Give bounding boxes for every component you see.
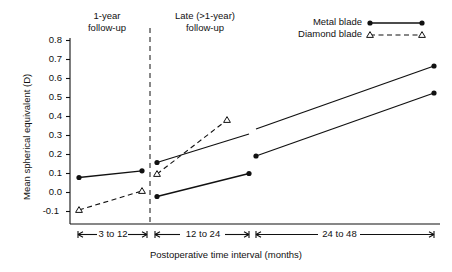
y-tick-label-1: 0.7 (36, 54, 62, 65)
metal-marker-24-lower-start (253, 153, 258, 158)
diamond-segment-12-24 (157, 120, 227, 174)
legend-label-diamond-blade: Diamond blade (252, 29, 362, 40)
y-tick-label-2: 0.6 (36, 73, 62, 84)
metal-segment-24-48-upper (256, 66, 434, 129)
metal-segment-12-24-lower (157, 174, 249, 197)
metal-segment-12-24-upper (157, 134, 249, 163)
diamond-segment-3-12 (79, 191, 142, 210)
metal-marker-48-upper (431, 63, 436, 68)
metal-segment-3-12 (79, 171, 142, 178)
y-tick-label-8: 0.0 (36, 187, 62, 198)
x-range-bars (78, 231, 434, 238)
y-tick-label-0: 0.8 (36, 35, 62, 46)
legend-samples (367, 20, 426, 37)
x-axis-title: Postoperative time interval (months) (0, 250, 452, 261)
legend-marker-diamond-right (419, 32, 426, 38)
metal-marker-48-lower (431, 90, 436, 95)
x-range-label-24-to-48: 24 to 48 (318, 229, 361, 240)
y-tick-label-9: -0.1 (33, 206, 59, 217)
y-tick-label-6: 0.2 (36, 149, 62, 160)
x-range-label-12-to-24: 12 to 24 (180, 229, 226, 240)
chart-canvas (0, 0, 452, 272)
y-tick-label-4: 0.4 (36, 111, 62, 122)
diamond-marker-12a (139, 188, 146, 194)
series-diamond-blade (76, 117, 231, 213)
metal-segment-24-48-lower (256, 93, 434, 156)
series-metal-blade (76, 63, 436, 199)
legend-marker-metal-left (367, 20, 372, 25)
panel-title-1-line1: 1-year (52, 11, 162, 22)
y-axis-title: Mean spherical equivalent (D) (22, 74, 33, 200)
diamond-marker-24 (224, 117, 231, 123)
y-tick-label-7: 0.1 (36, 168, 62, 179)
metal-marker-12b-upper (154, 160, 159, 165)
metal-marker-24-lower-end (246, 171, 251, 176)
legend-label-metal-blade: Metal blade (252, 17, 362, 28)
y-axis-ticks (66, 41, 70, 212)
chart-figure: 0.8 0.7 0.6 0.5 0.4 0.3 0.2 0.1 0.0 -0.1… (0, 0, 452, 272)
y-tick-label-5: 0.3 (36, 130, 62, 141)
y-tick-label-3: 0.5 (36, 92, 62, 103)
x-range-label-3-to-12: 3 to 12 (97, 229, 129, 240)
panel-title-1-line2: follow-up (52, 23, 162, 34)
panel-title-2-line1: Late (>1-year) (150, 11, 260, 22)
panel-title-2-line2: follow-up (150, 23, 260, 34)
metal-marker-12a (139, 168, 144, 173)
metal-marker-3 (76, 175, 81, 180)
legend-marker-metal-right (419, 20, 424, 25)
metal-marker-12b-lower (154, 194, 159, 199)
